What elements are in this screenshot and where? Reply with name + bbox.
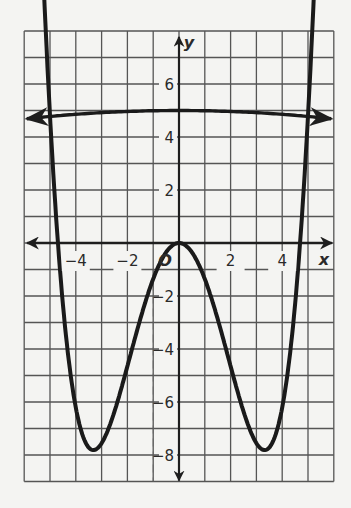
x-axis-label: x — [318, 250, 330, 269]
y-tick-label: −6 — [152, 394, 174, 412]
y-axis-label: y — [184, 33, 195, 52]
y-tick-label: −2 — [152, 288, 174, 306]
y-tick-label: −4 — [152, 341, 174, 359]
graph-plot: −4−224642−2−4−6−8Oxy — [0, 0, 351, 508]
x-tick-label: −2 — [116, 252, 138, 270]
y-tick-label: −8 — [152, 447, 174, 465]
origin-label: O — [158, 251, 172, 270]
y-tick-label: 6 — [164, 76, 174, 94]
x-tick-label: −4 — [65, 252, 87, 270]
y-tick-label: 2 — [164, 182, 174, 200]
y-tick-label: 4 — [164, 129, 174, 147]
x-tick-label: 2 — [226, 252, 236, 270]
x-tick-label: 4 — [277, 252, 287, 270]
